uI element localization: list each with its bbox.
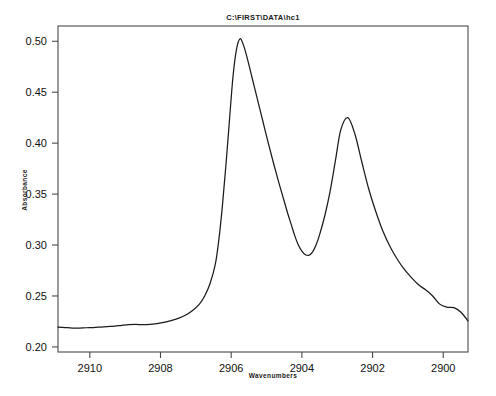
y-tick-label: 0.40 <box>26 137 47 149</box>
x-axis-title: Wavenumbers <box>249 372 298 379</box>
x-tick-label: 2902 <box>360 362 384 374</box>
spectrum-figure: C:\FIRST\DATA\hc1 0.200.250.300.350.400.… <box>0 0 496 396</box>
y-tick-label: 0.20 <box>26 341 47 353</box>
page-title: C:\FIRST\DATA\hc1 <box>226 13 300 22</box>
y-tick-label: 0.35 <box>26 188 47 200</box>
x-tick-label: 2900 <box>431 362 455 374</box>
y-tick-label: 0.25 <box>26 290 47 302</box>
x-tick-label: 2910 <box>78 362 102 374</box>
y-axis-title: Absorbance <box>21 169 28 211</box>
x-tick-label: 2906 <box>219 362 243 374</box>
y-tick-label: 0.50 <box>26 35 47 47</box>
x-tick-label: 2908 <box>148 362 172 374</box>
y-tick-label: 0.30 <box>26 239 47 251</box>
y-tick-label: 0.45 <box>26 86 47 98</box>
